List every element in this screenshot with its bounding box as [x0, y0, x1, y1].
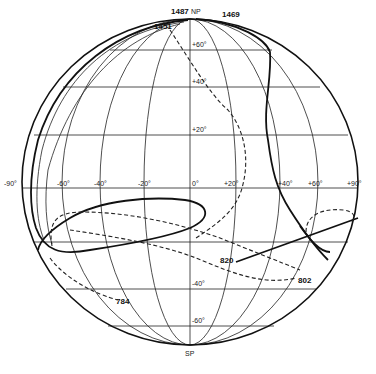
lon-label-plus60: +60° [308, 180, 323, 187]
lat-label-minus40: -40° [192, 280, 205, 287]
lat-label-minus60: -60° [192, 317, 205, 324]
lon-label-0: 0° [192, 180, 199, 187]
track-label-820: 820 [220, 256, 234, 265]
track-label-1451: 1451 [154, 22, 172, 31]
track-dashed-loop-left [51, 212, 300, 270]
lon-label-minus60: -60° [57, 180, 70, 187]
lon-label-plus20: +20° [224, 180, 239, 187]
track-label-802: 802 [298, 276, 312, 285]
longitude-labels: -90° -60° -40° -20° 0° +20° +40° +60° +9… [4, 180, 362, 187]
track-label-784: 784 [116, 297, 130, 306]
lon-label-minus90: -90° [4, 180, 17, 187]
track-label-1469: 1469 [222, 10, 240, 19]
lon-label-plus40: +40° [278, 180, 293, 187]
lat-label-plus40: +40° [192, 78, 207, 85]
track-label-1487: 1487 [171, 7, 189, 16]
track-1469 [196, 19, 328, 260]
globe-diagram: -90° -60° -40° -20° 0° +20° +40° +60° +9… [0, 0, 376, 374]
lat-label-plus60: +60° [192, 41, 207, 48]
south-pole-label: SP [185, 350, 195, 357]
lon-label-minus20: -20° [138, 180, 151, 187]
north-pole-label: NP [191, 8, 201, 15]
limb-trace-2 [46, 24, 180, 244]
lon-label-plus90: +90° [347, 180, 362, 187]
lat-label-plus20: +20° [192, 126, 207, 133]
track-784 [50, 258, 118, 300]
lon-label-minus40: -40° [94, 180, 107, 187]
